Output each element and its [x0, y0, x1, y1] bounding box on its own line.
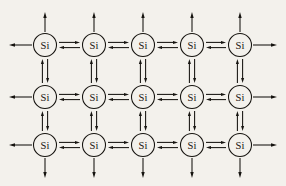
equilibrium-forward-arrow	[157, 41, 178, 44]
equilibrium-horizontal-icon	[59, 93, 80, 101]
equilibrium-up-arrow	[41, 59, 44, 83]
edge-arrow-left-icon	[9, 95, 32, 98]
equilibrium-vertical-icon	[90, 111, 98, 131]
edge-arrow-up-icon	[92, 12, 95, 32]
equilibrium-up-arrow	[139, 111, 142, 131]
equilibrium-forward-arrow	[108, 41, 129, 44]
equilibrium-vertical-icon	[236, 59, 244, 83]
equilibrium-horizontal-icon	[108, 93, 129, 101]
equilibrium-horizontal-icon	[157, 141, 178, 149]
equilibrium-horizontal-icon	[157, 41, 178, 49]
arrowhead	[43, 12, 46, 32]
si-node: Si	[181, 134, 204, 157]
equilibrium-reverse-arrow	[157, 146, 178, 149]
arrowhead	[9, 43, 32, 46]
arrowhead	[141, 12, 144, 32]
equilibrium-reverse-arrow	[108, 146, 129, 149]
si-node: Si	[83, 134, 106, 157]
equilibrium-forward-arrow	[157, 141, 178, 144]
equilibrium-reverse-arrow	[157, 98, 178, 101]
si-node: Si	[132, 134, 155, 157]
equilibrium-horizontal-icon	[108, 41, 129, 49]
equilibrium-reverse-arrow	[206, 98, 226, 101]
si-node-label: Si	[139, 40, 148, 51]
equilibrium-up-arrow	[139, 59, 142, 83]
equilibrium-horizontal-icon	[59, 41, 80, 49]
edge-arrow-down-icon	[92, 158, 95, 178]
edge-arrow-down-icon	[141, 158, 144, 178]
si-nodes-layer: SiSiSiSiSiSiSiSiSiSiSiSiSiSiSi	[34, 34, 252, 157]
si-node-label: Si	[139, 92, 148, 103]
arrowhead	[190, 158, 193, 178]
edge-arrow-right-icon	[253, 95, 277, 98]
edge-arrow-up-icon	[43, 12, 46, 32]
lattice-canvas: SiSiSiSiSiSiSiSiSiSiSiSiSiSiSi	[0, 0, 286, 186]
arrowhead	[238, 158, 241, 178]
equilibrium-horizontal-icon	[206, 41, 226, 49]
si-node-label: Si	[236, 40, 245, 51]
equilibrium-down-arrow	[46, 59, 49, 83]
equilibrium-reverse-arrow	[108, 98, 129, 101]
si-node: Si	[34, 86, 57, 109]
equilibrium-forward-arrow	[59, 93, 80, 96]
equilibrium-reverse-arrow	[59, 46, 80, 49]
si-node: Si	[181, 34, 204, 57]
edge-arrow-up-icon	[190, 12, 193, 32]
equilibrium-reverse-arrow	[59, 146, 80, 149]
equilibrium-vertical-icon	[236, 111, 244, 131]
equilibrium-down-arrow	[241, 111, 244, 131]
equilibrium-up-arrow	[188, 59, 191, 83]
equilibrium-vertical-icon	[41, 59, 49, 83]
si-node: Si	[34, 34, 57, 57]
equilibrium-up-arrow	[236, 59, 239, 83]
equilibrium-down-arrow	[144, 59, 147, 83]
equilibrium-up-arrow	[236, 111, 239, 131]
arrowhead	[253, 43, 277, 46]
si-node: Si	[132, 86, 155, 109]
equilibrium-horizontal-icon	[108, 141, 129, 149]
equilibrium-down-arrow	[144, 111, 147, 131]
edge-arrow-down-icon	[238, 158, 241, 178]
equilibrium-vertical-icon	[139, 111, 147, 131]
equilibrium-up-arrow	[41, 111, 44, 131]
si-lattice-diagram: SiSiSiSiSiSiSiSiSiSiSiSiSiSiSi	[0, 0, 286, 186]
si-node-label: Si	[41, 40, 50, 51]
si-node: Si	[181, 86, 204, 109]
equilibrium-forward-arrow	[206, 93, 226, 96]
arrowhead	[9, 95, 32, 98]
si-node-label: Si	[188, 40, 197, 51]
si-node-label: Si	[236, 140, 245, 151]
si-node: Si	[132, 34, 155, 57]
si-node: Si	[229, 34, 252, 57]
equilibrium-reverse-arrow	[206, 146, 226, 149]
edge-arrow-left-icon	[9, 143, 32, 146]
si-node: Si	[83, 34, 106, 57]
equilibrium-forward-arrow	[108, 93, 129, 96]
si-node-label: Si	[41, 140, 50, 151]
equilibrium-forward-arrow	[157, 93, 178, 96]
edge-arrow-down-icon	[190, 158, 193, 178]
si-node: Si	[229, 134, 252, 157]
si-node-label: Si	[90, 140, 99, 151]
equilibrium-reverse-arrow	[59, 98, 80, 101]
arrowhead	[43, 158, 46, 178]
equilibrium-down-arrow	[241, 59, 244, 83]
equilibrium-up-arrow	[90, 59, 93, 83]
equilibrium-down-arrow	[193, 59, 196, 83]
equilibrium-reverse-arrow	[157, 46, 178, 49]
equilibrium-vertical-icon	[139, 59, 147, 83]
equilibrium-forward-arrow	[59, 141, 80, 144]
arrowhead	[92, 158, 95, 178]
si-node-label: Si	[41, 92, 50, 103]
edge-arrow-up-icon	[141, 12, 144, 32]
si-node-label: Si	[139, 140, 148, 151]
si-node-label: Si	[188, 92, 197, 103]
si-node-label: Si	[236, 92, 245, 103]
equilibrium-down-arrow	[95, 59, 98, 83]
si-node-label: Si	[90, 40, 99, 51]
arrowhead	[190, 12, 193, 32]
equilibrium-vertical-icon	[41, 111, 49, 131]
equilibrium-reverse-arrow	[108, 46, 129, 49]
equilibrium-reverse-arrow	[206, 46, 226, 49]
arrowhead	[141, 158, 144, 178]
